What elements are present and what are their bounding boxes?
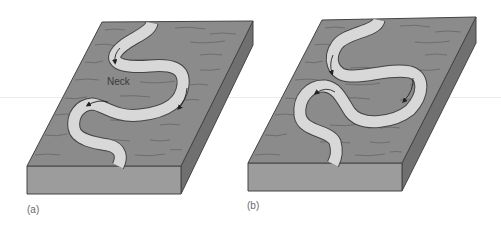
block-b bbox=[248, 17, 476, 191]
neck-label: Neck bbox=[107, 76, 130, 87]
block-a bbox=[27, 21, 253, 194]
panel-label-b: (b) bbox=[247, 200, 259, 211]
meander-diagram bbox=[0, 0, 501, 228]
panel-label-a: (a) bbox=[27, 204, 39, 215]
